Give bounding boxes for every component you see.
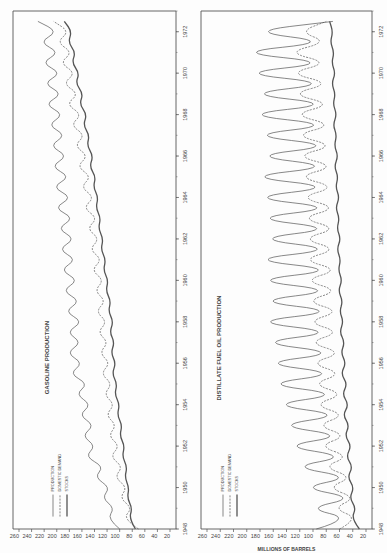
y-tick-label: 260: [198, 533, 207, 539]
y-tick-label: 180: [251, 533, 260, 539]
x-tick-label: 1952: [182, 440, 188, 452]
y-tick-label: 220: [224, 533, 233, 539]
legend: PRODUCTIONDOMESTIC DEMANDSTOCKS: [221, 454, 239, 517]
x-tick-label: 1960: [182, 274, 188, 286]
x-tick-label: 1972: [378, 26, 384, 38]
x-tick-label: 1972: [182, 26, 188, 38]
x-tick-label: 1962: [378, 233, 384, 245]
x-tick-label: 1962: [182, 233, 188, 245]
y-axis-label: MILLIONS OF BARRELS: [258, 546, 316, 552]
scanned-page: 2040608010012014016018020022024026019481…: [0, 0, 387, 553]
y-tick-label: 60: [333, 533, 339, 539]
y-tick-label: 140: [277, 533, 286, 539]
x-tick-label: 1966: [378, 150, 384, 162]
x-tick-label: 1954: [378, 399, 384, 411]
y-tick-label: 80: [320, 533, 326, 539]
y-tick-label: 20: [164, 533, 170, 539]
legend-label: DOMESTIC DEMAND: [228, 454, 232, 492]
x-tick-label: 1956: [182, 357, 188, 369]
y-tick-label: 20: [360, 533, 366, 539]
legend-label: STOCKS: [65, 476, 69, 492]
chart-title: DISTILLATE FUEL OIL PRODUCTION: [216, 296, 222, 401]
y-tick-label: 160: [264, 533, 273, 539]
x-tick-label: 1970: [182, 67, 188, 79]
y-tick-label: 120: [291, 533, 300, 539]
series-line-production: [256, 21, 342, 529]
rotated-frame: 2040608010012014016018020022024026019481…: [0, 0, 194, 553]
legend-label: STOCKS: [235, 476, 239, 492]
x-tick-label: 1952: [378, 440, 384, 452]
legend: PRODUCTIONDOMESTIC DEMANDSTOCKS: [51, 454, 69, 517]
x-tick-label: 1956: [378, 357, 384, 369]
series-line-domestic-demand: [54, 21, 139, 529]
y-tick-label: 100: [304, 533, 313, 539]
y-tick-label: 200: [48, 533, 57, 539]
x-tick-label: 1950: [378, 481, 384, 493]
series-line-stocks: [64, 21, 135, 529]
legend-label: DOMESTIC DEMAND: [58, 454, 62, 492]
gasoline-production-chart: 2040608010012014016018020022024026019481…: [0, 0, 194, 553]
y-tick-label: 240: [211, 533, 220, 539]
x-tick-label: 1958: [182, 316, 188, 328]
y-tick-label: 120: [98, 533, 107, 539]
y-tick-label: 40: [347, 533, 353, 539]
y-tick-label: 60: [139, 533, 145, 539]
distillate-fuel-oil-production-chart: 2040608010012014016018020022024026019481…: [194, 0, 387, 553]
y-tick-label: 100: [110, 533, 119, 539]
y-tick-label: 180: [60, 533, 69, 539]
x-tick-label: 1964: [182, 191, 188, 203]
x-tick-label: 1958: [378, 316, 384, 328]
plot-frame: [13, 11, 176, 529]
series-line-production: [38, 21, 120, 529]
y-tick-label: 220: [35, 533, 44, 539]
x-tick-label: 1948: [378, 523, 384, 535]
x-tick-label: 1948: [182, 523, 188, 535]
y-tick-label: 140: [85, 533, 94, 539]
y-tick-label: 200: [238, 533, 247, 539]
legend-label: PRODUCTION: [221, 466, 225, 492]
x-tick-label: 1954: [182, 399, 188, 411]
series-line-stocks: [330, 21, 360, 529]
y-tick-label: 260: [10, 533, 19, 539]
chart-title: GASOLINE PRODUCTION: [44, 321, 50, 394]
y-tick-label: 240: [22, 533, 31, 539]
y-tick-label: 40: [151, 533, 157, 539]
chart-svg: 2040608010012014016018020022024026019481…: [194, 0, 387, 553]
x-tick-label: 1968: [378, 108, 384, 120]
x-tick-label: 1970: [378, 67, 384, 79]
x-tick-label: 1968: [182, 108, 188, 120]
y-tick-label: 80: [126, 533, 132, 539]
x-tick-label: 1960: [378, 274, 384, 286]
chart-svg: 2040608010012014016018020022024026019481…: [0, 0, 194, 553]
y-tick-label: 160: [73, 533, 82, 539]
legend-label: PRODUCTION: [51, 466, 55, 492]
x-tick-label: 1950: [182, 481, 188, 493]
x-tick-label: 1964: [378, 191, 384, 203]
rotated-frame: 2040608010012014016018020022024026019481…: [194, 0, 387, 553]
x-tick-label: 1966: [182, 150, 188, 162]
